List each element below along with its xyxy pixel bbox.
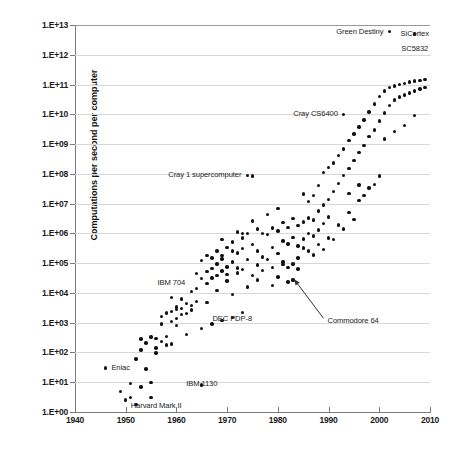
data-point [332, 238, 335, 241]
data-point [185, 302, 188, 305]
data-point [342, 113, 345, 116]
data-point [185, 333, 188, 336]
data-point [388, 104, 391, 107]
data-point [200, 327, 203, 330]
x-tick-mark [430, 407, 431, 412]
data-point [119, 390, 122, 393]
data-point [246, 232, 249, 235]
data-point [327, 198, 330, 201]
data-point [236, 271, 239, 274]
data-point [362, 194, 365, 197]
x-tick-label: 1950 [106, 415, 146, 425]
annotation-label: Green Destiny [0, 27, 383, 36]
data-point [332, 161, 335, 164]
annotation-label: IBM 704 [111, 278, 231, 287]
data-point [154, 346, 157, 349]
data-point [200, 259, 203, 262]
data-point [393, 84, 396, 87]
data-point [357, 151, 360, 154]
data-point [286, 242, 289, 245]
data-point [352, 218, 355, 221]
data-point [170, 296, 173, 299]
data-point [276, 207, 279, 210]
data-point [398, 95, 401, 98]
data-point [418, 87, 421, 90]
y-tick-label: 1.E+12 [42, 50, 68, 60]
data-point [423, 86, 426, 89]
data-point [231, 240, 234, 243]
y-tick-label: 1.E+06 [42, 228, 68, 238]
data-point [307, 232, 310, 235]
data-point [281, 221, 284, 224]
data-point [322, 171, 325, 174]
data-point [139, 348, 142, 351]
data-point [418, 79, 421, 82]
data-point [215, 289, 218, 292]
data-point [296, 244, 299, 247]
x-tick-label: 1990 [309, 415, 349, 425]
data-point [373, 128, 376, 131]
data-point [266, 258, 269, 261]
data-point [362, 144, 365, 147]
data-point [256, 227, 259, 230]
data-point [281, 239, 284, 242]
data-point [307, 249, 310, 252]
annotation-label: SiCortex [355, 29, 462, 38]
data-point [312, 194, 315, 197]
data-point [246, 174, 249, 177]
data-point [241, 247, 244, 250]
data-point [378, 119, 381, 122]
data-point [403, 124, 406, 127]
data-point [225, 273, 228, 276]
data-point [312, 218, 315, 221]
annotation-label: Cray CS6400 [0, 109, 338, 118]
annotation-label: SC5832 [355, 44, 462, 53]
data-point [251, 219, 254, 222]
data-point [271, 226, 274, 229]
data-point [195, 287, 198, 290]
data-point [378, 174, 381, 177]
data-point [291, 236, 294, 239]
annotation-label: Eniac [61, 363, 181, 372]
data-point [134, 357, 137, 360]
data-point [342, 174, 345, 177]
data-point [205, 301, 208, 304]
y-tick-label: 1.E+01 [42, 377, 68, 387]
data-point [271, 266, 274, 269]
data-point [129, 396, 132, 399]
data-point [236, 266, 239, 269]
data-point [378, 95, 381, 98]
data-point [220, 254, 223, 257]
data-point [149, 396, 152, 399]
data-point [281, 260, 284, 263]
data-point [210, 256, 213, 259]
x-tick-label: 1980 [258, 415, 298, 425]
annotation-label: DEC PDP-8 [172, 314, 292, 323]
annotation-label: Cray 1 supercomputer [0, 170, 241, 179]
data-point [367, 110, 370, 113]
data-point [322, 222, 325, 225]
data-point [413, 79, 416, 82]
data-point [347, 211, 350, 214]
x-tick-label: 1940 [55, 415, 95, 425]
data-point [205, 270, 208, 273]
data-point [231, 260, 234, 263]
data-point [276, 275, 279, 278]
data-point [302, 237, 305, 240]
data-point [149, 335, 152, 338]
data-point [332, 190, 335, 193]
x-axis-line [75, 412, 431, 413]
data-point [261, 269, 264, 272]
data-point [195, 300, 198, 303]
data-point [246, 258, 249, 261]
data-point [251, 243, 254, 246]
y-tick-mark [70, 412, 75, 413]
data-point [357, 125, 360, 128]
data-point [154, 351, 157, 354]
data-point [256, 278, 259, 281]
data-point [352, 159, 355, 162]
scatter-chart: Computations per second per computer 1.E… [0, 0, 462, 463]
data-point [423, 78, 426, 81]
data-point [225, 246, 228, 249]
data-point [383, 137, 386, 140]
